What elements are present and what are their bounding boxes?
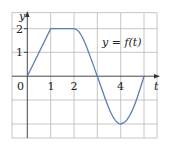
tick-label-y2: 2 [16, 23, 23, 36]
axes [12, 15, 157, 138]
tick-label-y1: 1 [16, 46, 23, 59]
tick-label-x4: 4 [117, 80, 124, 93]
tick-label-x1: 1 [48, 80, 55, 93]
t-axis-label: t [154, 80, 159, 93]
grid [12, 13, 157, 138]
grid-border [12, 13, 157, 138]
origin-label: 0 [17, 80, 24, 93]
chart-canvas: y t 0 1 2 4 2 1 y = f(t) [0, 0, 169, 147]
y-axis-arrow-icon [25, 11, 30, 17]
tick-label-x2: 2 [71, 80, 78, 93]
y-axis-label: y [18, 10, 26, 23]
function-annotation: y = f(t) [101, 36, 142, 49]
